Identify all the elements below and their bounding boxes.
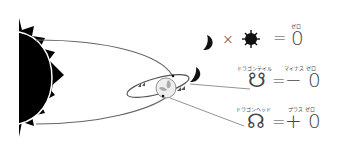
plus-zero-value: + 0	[285, 111, 321, 131]
minus-zero-value: − 0	[285, 70, 321, 90]
zero-value-1: 0	[291, 28, 304, 48]
lunar-nodes-diagram: × = ゼロ 0 ドラゴンテイル ☋ = マイナス ゼロ − 0 ドラゴンヘッド…	[0, 0, 341, 152]
equals-sign-2: =	[272, 73, 285, 89]
equals-sign-1: =	[273, 30, 286, 46]
sun-icon	[19, 18, 64, 137]
times-sign: ×	[222, 32, 234, 46]
moon-icon	[190, 67, 200, 82]
dragon-tail-icon: ☋	[248, 70, 266, 90]
dragon-head-icon: ☊	[247, 111, 265, 131]
equation-sun-icon	[242, 30, 260, 48]
equation-moon-icon	[203, 35, 213, 50]
earth-orbit	[36, 40, 172, 124]
earth-icon	[156, 78, 176, 98]
equals-sign-3: =	[272, 114, 285, 130]
